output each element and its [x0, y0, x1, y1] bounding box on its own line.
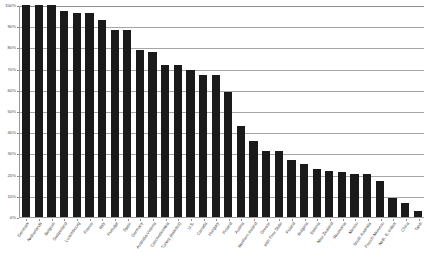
bar-slot — [235, 6, 248, 217]
bar-series — [20, 6, 424, 217]
bar-slot — [222, 6, 235, 217]
y-axis-tick-label: 80% — [8, 46, 17, 50]
bar-slot — [121, 6, 134, 217]
bar-slot — [184, 6, 197, 217]
y-axis-tick — [17, 218, 19, 219]
bar-slot — [361, 6, 374, 217]
x-axis: DenmarkNetherlandsBelgiumSwitzerlandLuxe… — [20, 219, 425, 277]
bar[interactable] — [338, 172, 346, 217]
bar-slot — [58, 6, 71, 217]
bar[interactable] — [111, 30, 119, 217]
bar[interactable] — [275, 151, 283, 217]
bar[interactable] — [224, 92, 232, 217]
bar-slot — [399, 6, 412, 217]
bar-slot — [134, 6, 147, 217]
bar-slot — [83, 6, 96, 217]
x-axis-tick-label: China — [400, 221, 410, 233]
x-axis-tick-label: France — [82, 221, 94, 235]
bar-slot — [310, 6, 323, 217]
y-axis: 0%10%20%30%40%50%60%70%80%90%100% — [0, 6, 19, 218]
bar-slot — [146, 6, 159, 217]
bar-slot — [197, 6, 210, 217]
bar-slot — [45, 6, 58, 217]
bar-slot — [285, 6, 298, 217]
bar[interactable] — [414, 211, 422, 217]
bar[interactable] — [148, 52, 156, 217]
bar[interactable] — [85, 13, 93, 217]
y-axis-tick-label: 0% — [10, 216, 16, 220]
bar-slot — [33, 6, 46, 217]
bar[interactable] — [186, 70, 194, 217]
bar[interactable] — [136, 50, 144, 217]
bar[interactable] — [287, 160, 295, 217]
bar[interactable] — [300, 164, 308, 217]
x-axis-tick-label: Poland — [285, 221, 297, 235]
y-axis-tick-label: 30% — [8, 152, 17, 156]
bar[interactable] — [35, 5, 43, 217]
y-axis-tick-label: 90% — [8, 25, 17, 29]
bar[interactable] — [174, 65, 182, 217]
bar[interactable] — [60, 11, 68, 217]
bar[interactable] — [199, 75, 207, 217]
bar-slot — [247, 6, 260, 217]
bar[interactable] — [363, 174, 371, 217]
bar[interactable] — [262, 151, 270, 217]
bar-slot — [20, 6, 33, 217]
x-axis-tick-label: Finland — [221, 221, 233, 235]
bar-slot — [336, 6, 349, 217]
bar[interactable] — [47, 5, 55, 217]
plot-area — [19, 6, 424, 218]
bar-slot — [172, 6, 185, 217]
bar[interactable] — [401, 203, 409, 217]
bar[interactable] — [249, 141, 257, 217]
y-axis-tick-label: 40% — [8, 131, 17, 135]
bar-slot — [386, 6, 399, 217]
bar[interactable] — [123, 30, 131, 217]
x-axis-tick-label: Hungary — [207, 221, 220, 237]
bar-slot — [71, 6, 84, 217]
bar[interactable] — [237, 126, 245, 217]
y-axis-tick-label: 20% — [8, 173, 17, 177]
bar[interactable] — [98, 20, 106, 217]
x-axis-tick-label: Spain — [121, 221, 131, 233]
bar-slot — [348, 6, 361, 217]
y-axis-tick-label: 10% — [8, 195, 17, 199]
bar[interactable] — [73, 13, 81, 217]
bar-slot — [273, 6, 286, 217]
bar[interactable] — [376, 181, 384, 217]
y-axis-tick-label: 70% — [8, 67, 17, 71]
x-axis-tick-label: Estonia — [309, 221, 321, 235]
x-axis-tick-label: Italy — [98, 221, 106, 230]
bar-slot — [323, 6, 336, 217]
bar[interactable] — [22, 5, 30, 217]
x-axis-tick-label: Austria — [234, 221, 246, 235]
x-axis-tick-label: Mexico — [348, 221, 360, 235]
bar[interactable] — [313, 169, 321, 217]
bar[interactable] — [212, 75, 220, 217]
x-axis-tick-label: Bulgaria — [296, 221, 309, 236]
bar-slot — [159, 6, 172, 217]
bar-chart: 0%10%20%30%40%50%60%70%80%90%100% Denmar… — [0, 0, 427, 277]
y-axis-tick-label: 50% — [8, 110, 17, 114]
bar-slot — [411, 6, 424, 217]
bar-slot — [298, 6, 311, 217]
bar[interactable] — [350, 174, 358, 217]
bar-slot — [108, 6, 121, 217]
bar-slot — [374, 6, 387, 217]
bar[interactable] — [325, 171, 333, 217]
bar-slot — [209, 6, 222, 217]
y-axis-tick-label: 100% — [5, 4, 16, 8]
x-axis-tick-label: U.S. — [186, 221, 195, 231]
bar[interactable] — [388, 198, 396, 217]
bar[interactable] — [161, 65, 169, 217]
bar-slot — [96, 6, 109, 217]
bar-slot — [260, 6, 273, 217]
x-axis-tick-label: Tahiti — [413, 221, 423, 232]
x-axis-tick-label: Portugal — [106, 221, 119, 237]
y-axis-tick-label: 60% — [8, 89, 17, 93]
